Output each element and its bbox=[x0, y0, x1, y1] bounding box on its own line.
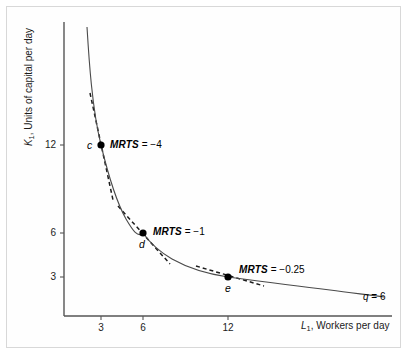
point-label-e: e bbox=[225, 283, 231, 294]
mrts-symbol-d: MRTS bbox=[153, 226, 182, 237]
curve-label-q: q = 6 bbox=[363, 292, 386, 302]
x-tick-label-6: 6 bbox=[131, 323, 155, 333]
x-axis-title: L1, Workers per day bbox=[301, 321, 389, 332]
point-label-d: d bbox=[139, 239, 145, 250]
isoquant-curve bbox=[87, 27, 384, 297]
y-tick-label-3: 3 bbox=[34, 272, 56, 282]
data-point-c bbox=[97, 141, 104, 148]
x-axis-title-text: , Workers per day bbox=[311, 320, 390, 331]
x-tick-label-3: 3 bbox=[89, 323, 113, 333]
isoquant-figure: K1, Units of capital per day L1, Workers… bbox=[0, 0, 408, 355]
mrts-annotation-d: MRTS = −1 bbox=[153, 227, 205, 237]
mrts-value-c: = −4 bbox=[139, 139, 162, 150]
mrts-value-e: = −0.25 bbox=[268, 264, 305, 275]
data-point-e bbox=[224, 273, 231, 280]
x-tick-label-12: 12 bbox=[216, 323, 240, 333]
mrts-symbol-e: MRTS bbox=[239, 264, 268, 275]
curve-label-value: = 6 bbox=[369, 291, 386, 302]
mrts-annotation-e: MRTS = −0.25 bbox=[239, 265, 305, 275]
point-label-c: c bbox=[87, 140, 92, 151]
data-point-d bbox=[139, 229, 146, 236]
y-axis-title: K1, Units of capital per day bbox=[18, 17, 36, 157]
y-tick-label-6: 6 bbox=[34, 228, 56, 238]
y-tick-label-12: 12 bbox=[34, 140, 56, 150]
y-axis-title-text: , Units of capital per day bbox=[23, 28, 34, 135]
mrts-annotation-c: MRTS = −4 bbox=[110, 140, 162, 150]
y-axis-title-symbol: K bbox=[23, 139, 34, 146]
y-axis-title-subscript: 1 bbox=[27, 135, 36, 139]
mrts-value-d: = −1 bbox=[182, 226, 205, 237]
plot-canvas bbox=[0, 0, 408, 355]
mrts-symbol-c: MRTS bbox=[110, 139, 139, 150]
